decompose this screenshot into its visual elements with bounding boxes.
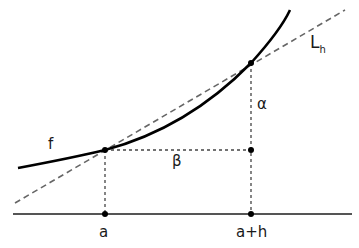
point-corner <box>248 147 254 153</box>
point-f-a <box>102 147 108 153</box>
label-a: a <box>99 225 108 240</box>
label-Lh: Lh <box>310 34 326 51</box>
label-a-plus-h: a+h <box>236 225 267 240</box>
label-f: f <box>48 137 53 152</box>
point-a-axis <box>102 211 108 217</box>
diagram-canvas <box>0 0 359 248</box>
label-alpha: α <box>257 97 267 112</box>
secant-line-Lh <box>15 10 345 203</box>
function-curve-f <box>18 10 290 168</box>
point-f-a-plus-h <box>248 60 254 66</box>
point-a-plus-h-axis <box>248 211 254 217</box>
label-h-subscript: h <box>319 44 325 55</box>
label-beta: β <box>172 154 182 169</box>
